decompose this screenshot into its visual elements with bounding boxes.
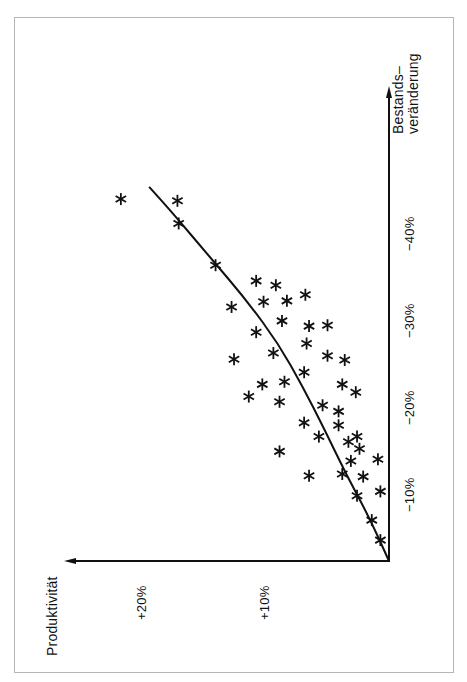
x-tick-label: −10%	[402, 478, 417, 512]
asterisk-marker-icon	[346, 455, 356, 467]
asterisk-marker-icon	[172, 195, 182, 207]
asterisk-marker-icon	[333, 405, 343, 417]
asterisk-marker-icon	[268, 347, 278, 359]
asterisk-marker-icon	[351, 386, 361, 398]
asterisk-marker-icon	[300, 289, 310, 301]
x-axis-title-line2: veränderung	[405, 53, 421, 134]
asterisk-marker-icon	[257, 378, 267, 390]
asterisk-marker-icon	[279, 376, 289, 388]
asterisk-marker-icon	[373, 453, 383, 465]
asterisk-marker-icon	[226, 301, 236, 313]
trend-curve	[149, 187, 389, 561]
asterisk-marker-icon	[358, 471, 368, 483]
asterisk-marker-icon	[277, 315, 287, 327]
asterisk-marker-icon	[301, 338, 311, 350]
y-axis-arrow-icon	[64, 558, 76, 564]
asterisk-marker-icon	[299, 366, 309, 378]
asterisk-marker-icon	[317, 399, 327, 411]
asterisk-marker-icon	[282, 295, 292, 307]
asterisk-marker-icon	[354, 443, 364, 455]
axes	[64, 86, 392, 564]
asterisk-marker-icon	[340, 354, 350, 366]
asterisk-marker-icon	[251, 326, 261, 338]
x-tick-label: −20%	[402, 391, 417, 425]
asterisk-marker-icon	[337, 378, 347, 390]
asterisk-marker-icon	[322, 350, 332, 362]
x-axis-title-line1: Bestands–	[390, 66, 406, 134]
y-tick-label: +10%	[257, 586, 272, 620]
asterisk-marker-icon	[322, 319, 332, 331]
x-tick-label: −40%	[402, 217, 417, 251]
asterisk-marker-icon	[258, 296, 268, 308]
asterisk-marker-icon	[333, 419, 343, 431]
asterisk-marker-icon	[251, 275, 261, 287]
asterisk-marker-icon	[274, 396, 284, 408]
asterisk-marker-icon	[343, 436, 353, 448]
asterisk-marker-icon	[244, 391, 254, 403]
asterisk-marker-icon	[116, 193, 126, 205]
asterisk-marker-icon	[299, 417, 309, 429]
y-axis-title: Produktivität	[44, 576, 60, 656]
asterisk-marker-icon	[352, 431, 362, 443]
y-tick-label: +20%	[134, 586, 149, 620]
asterisk-marker-icon	[271, 279, 281, 291]
asterisk-marker-icon	[375, 485, 385, 497]
x-tick-label: −30%	[402, 304, 417, 338]
asterisk-marker-icon	[314, 431, 324, 443]
asterisk-marker-icon	[229, 353, 239, 365]
asterisk-marker-icon	[274, 445, 284, 457]
data-points	[116, 193, 386, 546]
asterisk-marker-icon	[304, 470, 314, 482]
asterisk-marker-icon	[304, 320, 314, 332]
